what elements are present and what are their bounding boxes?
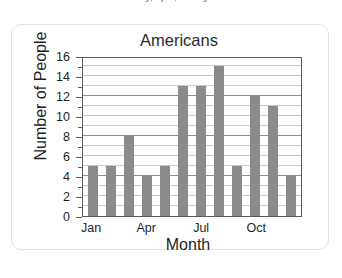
chart-title: Americans [12,31,328,50]
bar [178,86,188,216]
y-tick-mark [78,207,82,208]
bar [250,96,260,216]
x-tick-label: Jul [193,221,209,235]
x-tick-label: Jan [81,221,101,235]
y-tick-mark [76,197,82,198]
y-tick-mark [78,187,82,188]
bar [196,86,206,216]
clipped-header-text: of Americans that were in January, April… [0,0,342,12]
bar [214,66,224,216]
y-tick-label: 16 [44,50,70,64]
y-tick-mark [78,147,82,148]
y-tick-mark [78,67,82,68]
y-tick-mark [76,77,82,78]
y-tick-mark [78,127,82,128]
y-tick-mark [76,57,82,58]
y-tick-label: 4 [44,170,70,184]
bar [88,166,98,216]
chart-card: Americans Number of People 0246810121416… [11,24,329,250]
y-tick-mark [76,137,82,138]
y-tick-label: 10 [44,110,70,124]
plot-area: 0246810121416 [74,57,302,217]
y-tick-label: 12 [44,90,70,104]
y-tick-label: 2 [44,190,70,204]
y-tick-label: 14 [44,70,70,84]
y-tick-mark [76,217,82,218]
y-tick-mark [76,117,82,118]
bar [286,176,296,216]
x-axis-label: Month [74,236,302,254]
y-tick-mark [78,87,82,88]
bar [268,106,278,216]
y-tick-mark [76,97,82,98]
y-tick-mark [76,177,82,178]
y-tick-mark [78,167,82,168]
y-tick-label: 6 [44,150,70,164]
y-tick-mark [78,107,82,108]
y-tick-label: 8 [44,130,70,144]
clipped-header-text-line: of Americans that were in January, April… [4,0,210,2]
bar [106,166,116,216]
bar [142,176,152,216]
plot-frame [82,57,302,217]
bar-series [83,58,301,216]
bar [160,166,170,216]
y-tick-mark [76,157,82,158]
x-tick-label: Oct [246,221,265,235]
bar [232,166,242,216]
bar [124,136,134,216]
y-tick-label: 0 [44,210,70,224]
x-tick-label: Apr [136,221,155,235]
